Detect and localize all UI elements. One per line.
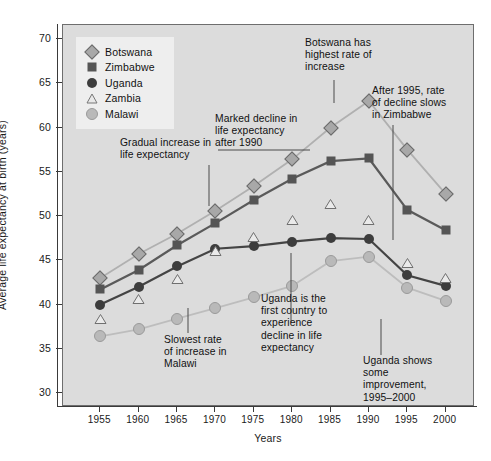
y-tick-label: 70 (39, 32, 51, 44)
annotation-line: after 1990 (215, 137, 315, 149)
annotation-line: of increase in (164, 346, 259, 358)
annotation-line: Marked decline in (215, 113, 315, 125)
annotation-marked-decline: Marked decline in life expectancy after … (215, 113, 315, 150)
annotation-line: life expectancy (215, 125, 315, 137)
y-tick-label: 60 (39, 121, 51, 133)
y-tick-label: 35 (39, 342, 51, 354)
annotation-line: Slowest rate (164, 334, 259, 346)
y-tick-label: 65 (39, 76, 51, 88)
y-tick-label: 30 (39, 386, 51, 398)
y-axis-title: Average life expectancy at birth (years) (0, 120, 8, 310)
annotation-line: first country to (261, 305, 353, 317)
annotation-line: of decline slows (372, 97, 472, 109)
annotation-zimbabwe-slows: After 1995, rate of decline slows in Zim… (372, 85, 472, 122)
annotation-line: improvement, (363, 379, 463, 391)
x-tick-label: 1970 (203, 414, 226, 425)
x-tick-label: 1980 (280, 414, 303, 425)
x-tick-label: 1990 (356, 414, 379, 425)
figure: Average life expectancy at birth (years)… (0, 0, 491, 461)
annotation-line: some (363, 367, 463, 379)
plot-area: Botswana Zimbabwe Uganda Zambia (62, 24, 474, 406)
annotation-malawi-slowest: Slowest rate of increase in Malawi (164, 334, 259, 371)
annotation-botswana-highest: Botswana has highest rate of increase (305, 37, 400, 74)
y-tick-label: 45 (39, 253, 51, 265)
annotation-line: life expectancy (120, 149, 240, 161)
annotation-line: experience (261, 317, 353, 329)
annotation-line: in Zimbabwe (372, 109, 472, 121)
annotation-line: highest rate of (305, 49, 400, 61)
x-tick-label: 1960 (126, 414, 149, 425)
x-axis-title: Years (254, 432, 281, 444)
annotation-line: After 1995, rate (372, 85, 472, 97)
x-tick-label: 1985 (318, 414, 341, 425)
annotation-line: expectancy (261, 342, 353, 354)
x-tick-label: 1965 (165, 414, 188, 425)
annotation-line: increase (305, 61, 400, 73)
annotation-line: Uganda shows (363, 355, 463, 367)
annotation-line: 1995–2000 (363, 392, 463, 404)
annotation-line: decline in life (261, 330, 353, 342)
annotation-line: Botswana has (305, 37, 400, 49)
y-tick-label: 40 (39, 298, 51, 310)
x-tick-label: 1995 (395, 414, 418, 425)
x-tick-label: 2000 (433, 414, 456, 425)
x-tick-label: 1975 (241, 414, 264, 425)
annotation-line: Malawi (164, 358, 259, 370)
y-tick-label: 50 (39, 209, 51, 221)
annotation-line: Uganda is the (261, 293, 353, 305)
annotation-uganda-improves: Uganda shows some improvement, 1995–2000 (363, 355, 463, 404)
annotation-uganda-first: Uganda is the first country to experienc… (261, 293, 353, 354)
x-tick-label: 1955 (88, 414, 111, 425)
y-tick-label: 55 (39, 165, 51, 177)
